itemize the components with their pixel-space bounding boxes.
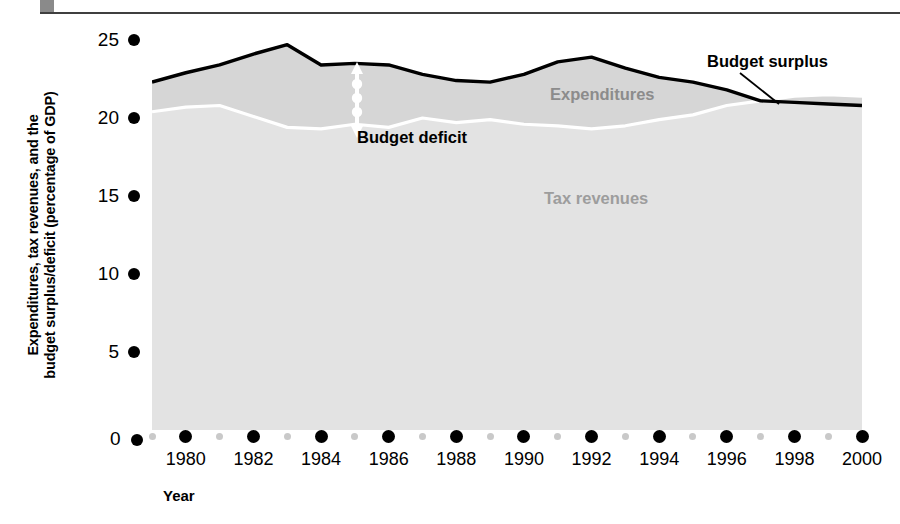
y-tick-dot	[128, 34, 140, 46]
budget-deficit-arrow	[351, 62, 363, 138]
y-tick-dot	[128, 190, 140, 202]
x-tick-dot-major	[382, 430, 395, 443]
expenditures-label: Expenditures	[550, 85, 655, 104]
x-tick-label: 1994	[639, 449, 679, 469]
x-tick-dot-minor	[284, 433, 291, 440]
y-tick-dot	[128, 268, 140, 280]
x-tick-dot-minor	[757, 433, 764, 440]
x-tick-dot-minor	[487, 433, 494, 440]
x-tick-dot-major	[720, 430, 733, 443]
plot-area: Expenditures Tax revenues Budget deficit	[152, 40, 862, 430]
x-tick-dot-minor	[351, 433, 358, 440]
x-tick-label: 1988	[436, 449, 476, 469]
budget-deficit-label: Budget deficit	[357, 128, 467, 147]
y-tick-10: 10	[54, 264, 140, 284]
x-tick-dot-major	[179, 430, 192, 443]
x-tick-dot-major	[517, 430, 530, 443]
y-tick-dot	[128, 346, 140, 358]
figure-container: Expenditures, tax revenues, and the budg…	[0, 0, 900, 524]
x-tick-dot-major	[788, 430, 801, 443]
chart-svg	[152, 40, 862, 430]
y-tick-label: 5	[108, 342, 119, 362]
x-tick-dot-major	[450, 430, 463, 443]
x-tick-label: 1990	[504, 449, 544, 469]
y-tick-5: 5	[54, 342, 140, 362]
x-tick-label: 1998	[774, 449, 814, 469]
x-tick-label: 1982	[233, 449, 273, 469]
x-tick-label: 1992	[572, 449, 612, 469]
x-tick-dot-minor	[149, 433, 156, 440]
tax-revenues-area	[152, 95, 862, 430]
x-tick-dot-minor	[554, 433, 561, 440]
x-tick-2000: 2000	[842, 430, 882, 469]
x-tick-dot-major	[585, 430, 598, 443]
x-tick-dot-major	[856, 430, 869, 443]
x-axis: 1980198219841986198819901992199419961998…	[0, 430, 900, 470]
x-tick-dot-minor	[419, 433, 426, 440]
x-tick-dot-minor	[216, 433, 223, 440]
x-tick-label: 2000	[842, 449, 882, 469]
y-tick-15: 15	[54, 186, 140, 206]
y-tick-25: 25	[54, 30, 140, 50]
y-tick-label: 15	[98, 186, 119, 206]
x-tick-dot-major	[315, 430, 328, 443]
y-tick-20: 20	[54, 108, 140, 128]
x-tick-dot-minor	[825, 433, 832, 440]
x-tick-dot-major	[247, 430, 260, 443]
x-axis-title: Year	[163, 487, 195, 504]
y-axis-title: Expenditures, tax revenues, and the budg…	[25, 25, 59, 445]
x-tick-label: 1980	[166, 449, 206, 469]
x-tick-dot-minor	[622, 433, 629, 440]
x-tick-label: 1986	[369, 449, 409, 469]
x-tick-dot-major	[653, 430, 666, 443]
y-tick-label: 25	[98, 30, 119, 50]
budget-surplus-label: Budget surplus	[707, 52, 828, 71]
x-tick-label: 1996	[707, 449, 747, 469]
y-tick-dot	[128, 112, 140, 124]
tax-revenues-label: Tax revenues	[544, 189, 648, 208]
y-tick-label: 20	[98, 108, 119, 128]
top-divider-rule	[40, 12, 900, 14]
x-tick-label: 1984	[301, 449, 341, 469]
x-tick-dot-minor	[689, 433, 696, 440]
y-tick-label: 10	[98, 264, 119, 284]
